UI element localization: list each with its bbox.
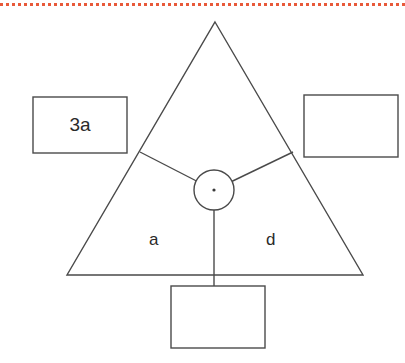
center-point-dot [212, 188, 215, 191]
region-label-d: d [266, 231, 275, 248]
answer-box-left[interactable] [33, 97, 127, 153]
answer-box-right[interactable] [304, 95, 398, 157]
answer-box-bottom[interactable] [171, 286, 265, 348]
region-label-a: a [149, 231, 158, 248]
geometry-figure [0, 0, 405, 363]
page-root: a d 3a [0, 0, 405, 363]
